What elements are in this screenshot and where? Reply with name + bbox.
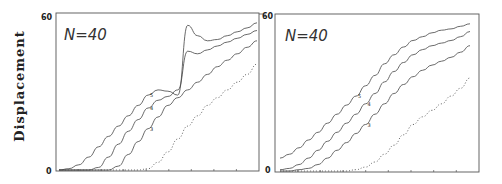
curve-label-4: 4 (368, 101, 371, 107)
figure: 60 0 N=40 543 60 0 N=40 543 (0, 0, 502, 184)
curve-3 (280, 46, 470, 171)
left-curves: 543 (59, 23, 257, 170)
right-panel: 60 0 N=40 543 (259, 12, 479, 175)
curve-4 (59, 31, 257, 171)
right-curves: 543 (280, 24, 470, 171)
curve-3 (59, 41, 257, 170)
right-n-annotation: N=40 (285, 27, 328, 45)
left-ytick-max: 60 (41, 13, 53, 22)
right-ytick-max: 60 (262, 12, 274, 21)
left-n-annotation: N=40 (64, 26, 107, 44)
right-ytick-min: 0 (265, 166, 271, 175)
curve-2 (280, 78, 470, 171)
left-panel: 60 0 N=40 543 (41, 13, 259, 176)
curve-5 (59, 23, 257, 170)
curve-4 (280, 32, 470, 170)
curve-label-5: 5 (358, 93, 361, 99)
curve-label-4: 4 (150, 105, 153, 111)
left-ytick-min: 0 (46, 167, 52, 176)
curve-label-3: 3 (368, 122, 371, 128)
curve-label-3: 3 (150, 126, 153, 132)
curve-label-5: 5 (150, 92, 153, 98)
